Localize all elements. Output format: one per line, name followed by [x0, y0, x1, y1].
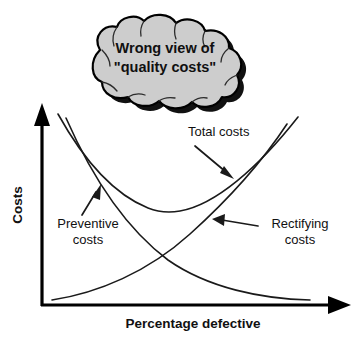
- total-costs-leader-line: [195, 146, 226, 172]
- figure-container: Wrong view of "quality costs" Costs Perc…: [0, 0, 362, 352]
- rectifying-costs-arrow-icon: [212, 214, 225, 226]
- curves: [52, 114, 310, 300]
- cloud-text-line1: Wrong view of: [116, 40, 215, 56]
- rectifying-costs-label-line1: Rectifying: [271, 216, 328, 231]
- annotation-preventive-costs: Preventive costs: [57, 184, 118, 247]
- annotation-total-costs: Total costs: [188, 124, 250, 179]
- preventive-costs-label-line1: Preventive: [57, 216, 118, 231]
- y-axis-label: Costs: [10, 186, 25, 224]
- x-axis-label: Percentage defective: [125, 316, 261, 331]
- annotation-rectifying-costs: Rectifying costs: [212, 214, 329, 247]
- rectifying-costs-leader-line: [222, 220, 258, 226]
- rectifying-costs-label-line2: costs: [285, 232, 316, 247]
- cloud-text-line2: "quality costs": [114, 59, 216, 75]
- x-axis-arrow-icon: [328, 296, 351, 314]
- quality-costs-diagram: Wrong view of "quality costs" Costs Perc…: [0, 0, 362, 352]
- preventive-costs-label-line2: costs: [73, 232, 104, 247]
- y-axis-arrow-icon: [34, 103, 50, 126]
- cloud-callout: Wrong view of "quality costs": [93, 15, 246, 113]
- total-costs-label: Total costs: [188, 124, 250, 139]
